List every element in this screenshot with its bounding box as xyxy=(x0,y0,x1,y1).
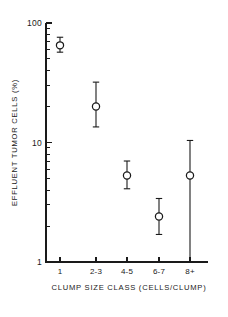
x-tick-label: 4-5 xyxy=(121,267,134,276)
data-point-group xyxy=(56,37,63,52)
data-point-group xyxy=(92,82,99,127)
y-tick-label: 100 xyxy=(27,18,42,28)
data-point-group xyxy=(186,140,193,262)
chart-figure: 10010112-34-56-78+CLUMP SIZE CLASS (CELL… xyxy=(0,0,228,317)
y-tick-label: 1 xyxy=(37,257,42,267)
data-marker xyxy=(92,103,99,110)
data-point-group xyxy=(155,198,162,234)
y-tick-label: 10 xyxy=(32,138,42,148)
axis-labels: 10010112-34-56-78+CLUMP SIZE CLASS (CELL… xyxy=(10,18,206,292)
x-axis-title: CLUMP SIZE CLASS (CELLS/CLUMP) xyxy=(52,283,207,292)
axes xyxy=(46,23,208,262)
data-marker xyxy=(155,213,162,220)
scatter-plot-svg: 10010112-34-56-78+CLUMP SIZE CLASS (CELL… xyxy=(0,0,228,317)
x-tick-label: 2-3 xyxy=(90,267,103,276)
data-marker xyxy=(186,172,193,179)
data-point-group xyxy=(123,161,130,189)
x-tick-label: 8+ xyxy=(185,267,195,276)
axis-ticks xyxy=(46,23,190,262)
data-marker xyxy=(56,42,63,49)
axis-lines xyxy=(46,23,208,262)
data-points xyxy=(56,37,193,262)
y-axis-title: EFFLUENT TUMOR CELLS (%) xyxy=(10,79,19,206)
data-marker xyxy=(123,172,130,179)
x-tick-label: 6-7 xyxy=(153,267,166,276)
x-tick-label: 1 xyxy=(58,267,63,276)
